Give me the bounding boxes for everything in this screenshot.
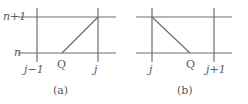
column-label-j-b: j	[149, 64, 152, 75]
figure-container: n+1 n j−1 Q j (a) j Q j+1 (b)	[0, 0, 248, 104]
panel-a: n+1 n j−1 Q j (a)	[0, 0, 124, 104]
characteristic-diagonal-a	[62, 17, 98, 53]
panel-caption-a: (a)	[53, 85, 68, 96]
row-label-n-plus-1: n+1	[3, 11, 26, 22]
panel-b: j Q j+1 (b)	[124, 0, 248, 104]
point-label-q-b: Q	[186, 59, 195, 70]
point-label-q-a: Q	[57, 59, 66, 70]
characteristic-diagonal-b	[152, 17, 190, 53]
column-label-j-plus-1: j+1	[206, 64, 226, 75]
column-label-j-a: j	[94, 64, 97, 75]
row-label-n: n	[14, 47, 21, 58]
panel-caption-b: (b)	[177, 85, 193, 96]
column-label-j-minus-1: j−1	[24, 64, 44, 75]
